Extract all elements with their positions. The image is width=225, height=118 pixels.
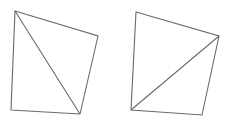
quadrilateral-right bbox=[131, 12, 219, 115]
quadrilateral-left-diagonal bbox=[15, 11, 80, 114]
quadrilateral-left-outline bbox=[11, 11, 98, 114]
diagram-canvas bbox=[0, 0, 225, 118]
quadrilateral-left bbox=[11, 11, 98, 114]
